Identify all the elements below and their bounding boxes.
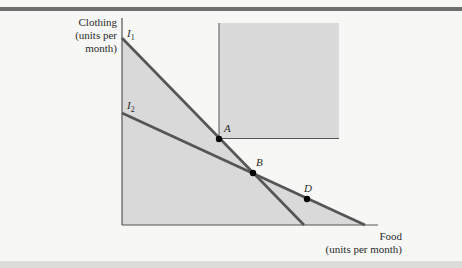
x-axis-label: Food (units per month) xyxy=(326,230,402,256)
x-axis-label-line1: Food xyxy=(326,230,402,243)
x-axis-label-line2: (units per month) xyxy=(326,243,402,256)
curve-i2-label: I2 xyxy=(127,99,135,114)
preferred-rectangle xyxy=(219,23,339,139)
bottom-band xyxy=(0,261,462,268)
y-axis-label: Clothing (units per month) xyxy=(75,16,117,55)
point-d-marker xyxy=(304,196,310,202)
indifference-diagram xyxy=(0,0,462,268)
point-b-marker xyxy=(250,170,256,176)
y-axis-label-line2: (units per xyxy=(75,29,117,42)
y-axis-label-line3: month) xyxy=(75,42,117,55)
point-d-label: D xyxy=(304,182,312,194)
point-b-label: B xyxy=(256,156,263,168)
y-axis-label-line1: Clothing xyxy=(75,16,117,29)
point-a-label: A xyxy=(224,122,231,134)
point-a-marker xyxy=(216,136,222,142)
curve-i1-label: I1 xyxy=(127,27,135,42)
